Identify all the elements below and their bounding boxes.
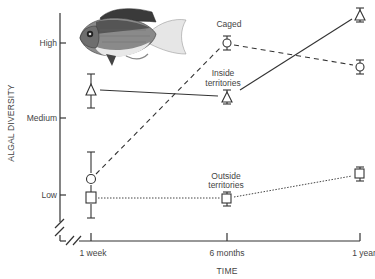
markers-caged — [87, 39, 365, 184]
x-axis-title: TIME — [216, 266, 237, 276]
marker-triangle — [86, 84, 96, 95]
marker-square — [222, 194, 231, 203]
y-axis-title: ALGAL DIVERSITY — [6, 84, 16, 161]
label-outside-line2: territories — [208, 180, 243, 190]
marker-square — [86, 192, 96, 203]
x-tick-6-months: 6 months — [210, 248, 245, 258]
y-tick-medium: Medium — [27, 113, 57, 123]
y-tick-low: Low — [41, 190, 57, 200]
label-inside-line1: Inside — [212, 68, 235, 78]
marker-circle — [356, 63, 364, 71]
y-tick-high: High — [40, 38, 58, 48]
x-axis — [60, 233, 360, 245]
marker-square — [355, 169, 364, 178]
marker-triangle — [222, 92, 232, 102]
chart-canvas: High Medium Low 1 week 6 months 1 year T… — [0, 0, 375, 279]
series-caged-line — [96, 45, 353, 174]
marker-triangle — [355, 10, 365, 20]
fish-illustration — [80, 9, 186, 66]
x-tick-1-year: 1 year — [352, 248, 375, 258]
marker-circle — [223, 39, 231, 47]
label-inside-line2: territories — [205, 78, 240, 88]
marker-circle — [87, 175, 96, 184]
x-tick-1-week: 1 week — [80, 248, 108, 258]
label-caged: Caged — [216, 19, 241, 29]
